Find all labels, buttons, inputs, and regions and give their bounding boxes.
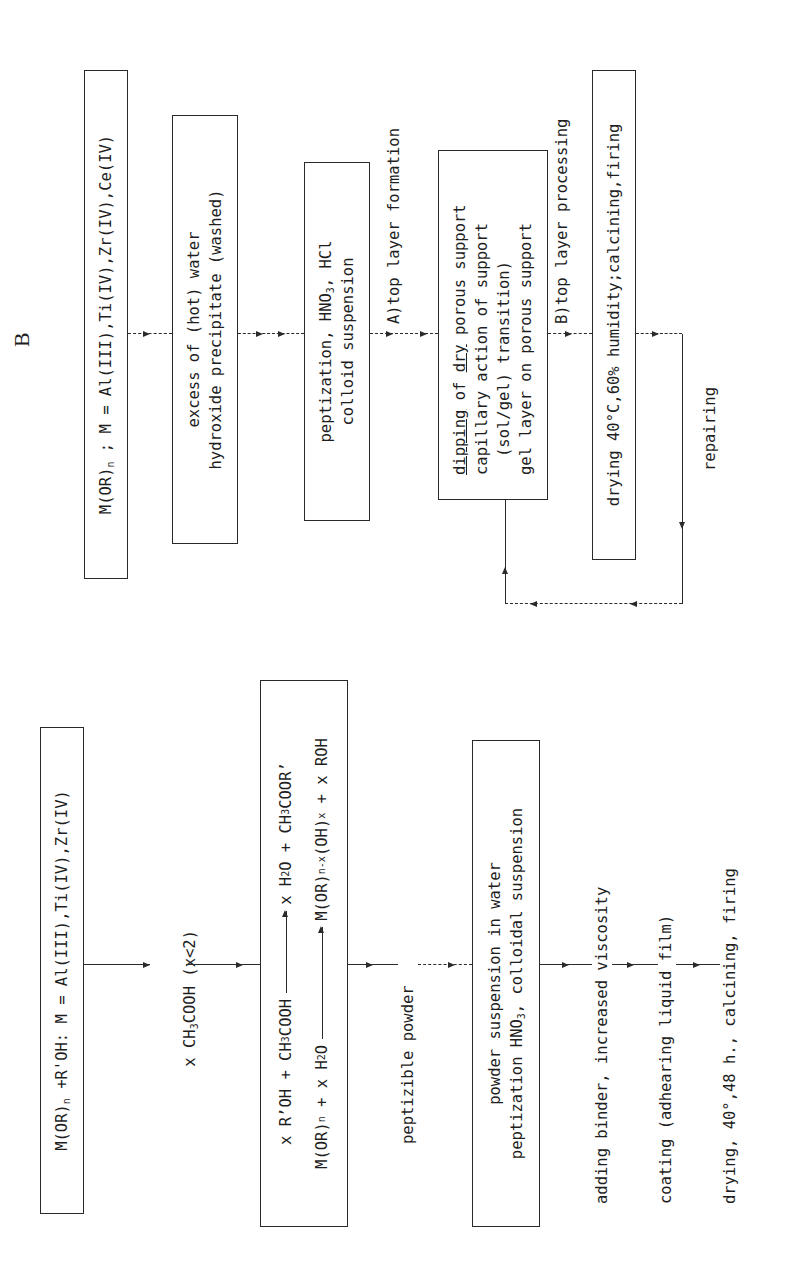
r1-rhs-a: x H	[275, 877, 297, 905]
b3-text-sub: 3	[325, 287, 336, 293]
arrow-a2-powder	[366, 962, 373, 968]
a3-text-pre: peptization HNO	[508, 1019, 526, 1159]
label-repairing: repairing	[700, 387, 720, 471]
repair-arrow-bottom	[679, 522, 685, 529]
arrow-b4-b5	[565, 331, 572, 337]
reagent-text-pre: x CH	[181, 1029, 199, 1066]
arrow-reagent-a2	[236, 962, 243, 968]
repair-arrow-side-2	[530, 601, 537, 607]
repair-loop-bottom	[682, 334, 683, 604]
reaction-2: M(OR)n + x H2O M(OR)n-x(OH)x + x ROH	[311, 738, 333, 1169]
r2-lhs-c: O	[311, 1045, 333, 1054]
b4-underline-dipping: dipping	[451, 410, 469, 475]
label-adding-binder: adding binder, increased viscosity	[592, 887, 612, 1204]
box-a2-reactions: x R’OH + CH3COOH x H2O + CH3COOR’ M(OR)n…	[260, 680, 348, 1227]
connector-b2-b3	[238, 333, 304, 334]
b2-line-1: excess of (hot) water	[183, 232, 205, 428]
b2-line-2: hydroxide precipitate (washed)	[205, 190, 227, 470]
repair-loop-top	[505, 500, 506, 604]
arrow-b3-b4-1	[386, 331, 393, 337]
process-flowchart: B M(OR)n ; M = Al(III),Ti(IV),Zr(IV),Ce(…	[0, 0, 808, 1264]
connector-powder-a3	[418, 964, 472, 965]
b4-line-4: gel layer on porous support	[515, 223, 537, 475]
r1-rhs-c: COOR’	[275, 762, 297, 809]
b1-text-pre: M(OR)	[97, 468, 115, 515]
b1-text-sub: n	[105, 461, 116, 467]
b5-line-1: drying 40°C,60% humidity;calcining,firin…	[603, 124, 625, 507]
arrow-b2-b3-1	[256, 331, 263, 337]
reagent-text-post: COOH (x<2)	[181, 930, 199, 1023]
reaction-arrow-1	[286, 911, 287, 993]
section-label-b: B	[12, 332, 32, 347]
a3-text-sub: 3	[516, 1013, 527, 1019]
repair-arrow-top	[502, 567, 508, 574]
b1-text-post: ; M = Al(III),Ti(IV),Zr(IV),Ce(IV)	[97, 135, 115, 462]
a1-text-sub: n	[61, 1098, 72, 1104]
connector-b3-b4	[370, 333, 438, 334]
box-b3-peptization: peptization, HNO3, HCl colloid suspensio…	[304, 162, 370, 521]
reaction-arrow-2	[322, 927, 323, 1039]
repair-arrow-side-1	[630, 601, 637, 607]
label-drying-a: drying, 40°,48 h., calcining, firing	[720, 868, 740, 1204]
connector-binder-coating	[612, 964, 658, 965]
b4-text-mid: of	[451, 372, 469, 409]
label-top-layer-processing: B)top layer processing	[552, 119, 572, 324]
arrow-binder-coating	[627, 962, 634, 968]
b4-line-2: capillary action of support	[471, 223, 493, 475]
b3-line-2: colloid suspension	[337, 258, 359, 426]
a1-text-pre: M(OR)	[53, 1104, 71, 1151]
arrow-a3-binder	[562, 962, 569, 968]
arrow-b3-b4-2	[420, 331, 427, 337]
label-coating: coating (adhearing liquid film)	[656, 915, 676, 1204]
connector-b1-b2	[128, 333, 172, 334]
r2-rhs-a: M(OR)	[311, 874, 333, 921]
b3-text-pre: peptization, HNO	[317, 293, 335, 442]
label-peptizible-powder: peptizible powder	[398, 985, 418, 1144]
b4-line-3: (sol/gel) transition)	[493, 261, 515, 475]
a3-line-1: powder suspension in water	[484, 862, 506, 1105]
r1-lhs-a: x R’OH + CH	[275, 1042, 297, 1145]
box-b5-drying: drying 40°C,60% humidity;calcining,firin…	[592, 70, 636, 560]
box-b2-hydroxide: excess of (hot) water hydroxide precipit…	[172, 115, 238, 544]
box-b4-dipping: dipping of dry porous support capillary …	[438, 150, 548, 500]
box-a1-precursor: M(OR)n +R'OH: M = Al(III),Ti(IV),Zr(IV)	[40, 727, 84, 1214]
r1-rhs-b: O + CH	[275, 815, 297, 871]
b4-underline-dry: dry	[451, 344, 469, 372]
connector-reagent-a2	[186, 964, 260, 965]
r2-rhs-c: + x ROH	[311, 738, 333, 813]
reagent-text-sub: 3	[189, 1023, 200, 1029]
arrow-b1-b2	[143, 331, 150, 337]
arrow-b5-repair	[652, 331, 659, 337]
r2-lhs-b: + x H	[311, 1060, 333, 1116]
r2-lhs-a: M(OR)	[311, 1122, 333, 1169]
arrow-a1-reagent	[143, 962, 150, 968]
connector-b5-repair	[636, 333, 682, 334]
a3-text-post: , colloidal suspension	[508, 808, 526, 1013]
arrow-coating-drying	[693, 962, 700, 968]
label-acetic-acid: x CH3COOH (x<2)	[160, 930, 220, 1104]
reaction-1: x R’OH + CH3COOH x H2O + CH3COOR’	[275, 762, 297, 1145]
box-b1-precursor: M(OR)n ; M = Al(III),Ti(IV),Zr(IV),Ce(IV…	[84, 70, 128, 579]
b4-text-post: porous support	[451, 204, 469, 344]
a1-text-post: +R'OH: M = Al(III),Ti(IV),Zr(IV)	[53, 790, 71, 1098]
r2-rhs-b: (OH)	[311, 819, 333, 856]
r1-lhs-b: COOH	[275, 999, 297, 1036]
connector-a2-powder	[348, 964, 398, 965]
b3-text-post: , HCl	[317, 241, 335, 288]
label-top-layer-formation: A)top layer formation	[384, 128, 404, 324]
connector-a1-reagent	[84, 964, 150, 965]
box-a3-suspension: powder suspension in water peptization H…	[472, 740, 540, 1227]
arrow-powder-a3	[448, 962, 455, 968]
arrow-b2-b3-2	[278, 331, 285, 337]
